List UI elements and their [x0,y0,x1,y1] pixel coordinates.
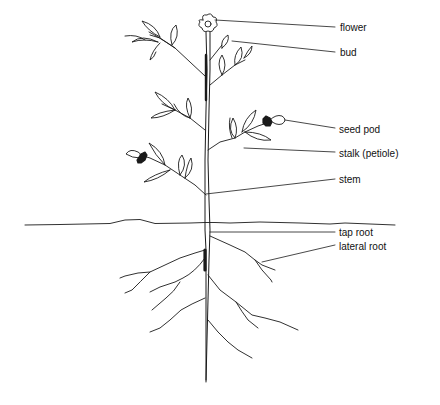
label-flower: flower [340,22,367,34]
stalk-petiole [208,122,270,150]
label-stem: stem [339,174,361,186]
label-bud: bud [340,47,357,59]
seed-pod-icon-2 [126,150,147,163]
seed-pod-icon [263,116,285,127]
plant-diagram [0,0,440,405]
bud-icon [210,35,228,60]
label-stalk-petiole: stalk (petiole) [339,148,398,160]
label-seed-pod: seed pod [339,124,380,136]
label-lateral-root: lateral root [339,241,386,253]
label-tap-root: tap root [339,227,373,239]
flower-icon [199,14,217,32]
